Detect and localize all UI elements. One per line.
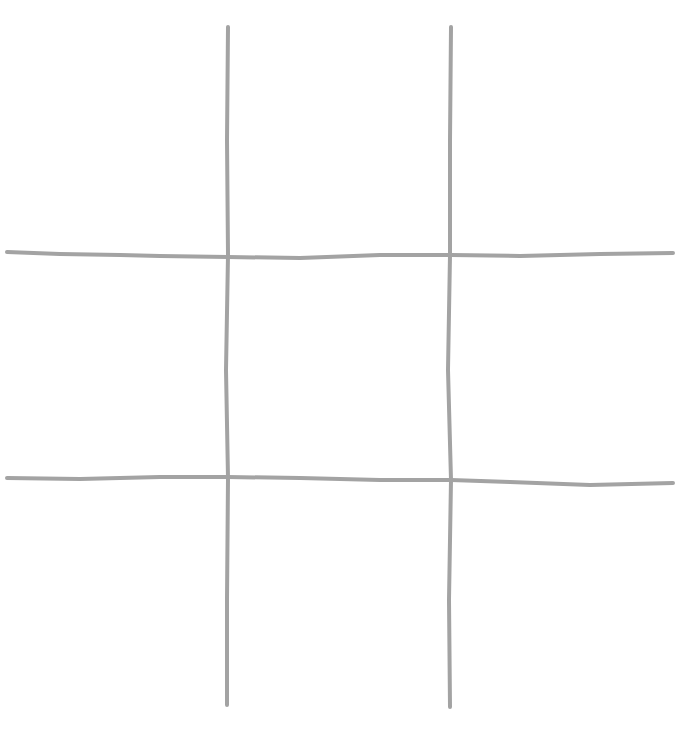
cell-r2-c0 xyxy=(8,482,226,704)
vertical-line-1 xyxy=(226,27,228,705)
vertical-line-2 xyxy=(448,27,451,707)
cell-r1-c1 xyxy=(230,259,448,475)
cell-r0-c1 xyxy=(230,28,448,250)
cell-r1-c2 xyxy=(453,259,673,475)
cell-r2-c2 xyxy=(453,482,673,704)
tic-tac-toe-board xyxy=(0,0,700,737)
horizontal-line-1 xyxy=(7,252,673,258)
cell-r1-c0 xyxy=(8,259,226,475)
cell-r0-c2 xyxy=(453,28,673,250)
cell-r0-c0 xyxy=(8,28,226,250)
cell-r2-c1 xyxy=(230,482,448,704)
